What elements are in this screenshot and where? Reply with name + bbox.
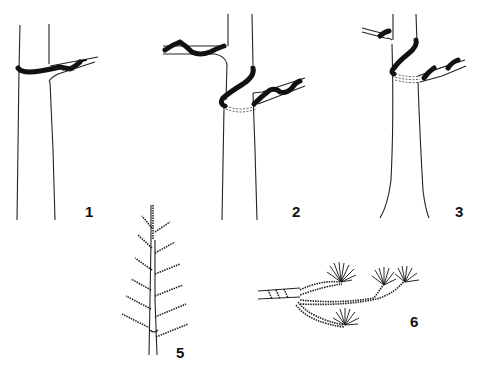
figure-label-6: 6	[410, 314, 418, 329]
figure-label-2: 2	[292, 204, 300, 219]
panel-6-drawing	[258, 262, 419, 327]
panel-1-drawing	[17, 24, 98, 220]
panel-5-drawing	[122, 205, 188, 355]
figure-label-3: 3	[455, 204, 463, 219]
figure-label-5: 5	[176, 345, 184, 360]
panel-2-drawing	[163, 14, 305, 220]
figure-label-1: 1	[85, 204, 93, 219]
panel-3-drawing	[362, 14, 466, 218]
needle-tuft	[395, 266, 419, 282]
needle-tuft	[327, 262, 356, 282]
needle-tuft	[333, 308, 359, 325]
illustration-canvas: 1 2 3 5 6	[0, 0, 483, 369]
needle-tuft	[372, 267, 396, 285]
